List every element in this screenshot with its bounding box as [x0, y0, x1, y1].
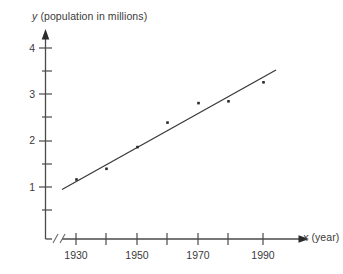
y-axis-title: y (population in millions) — [32, 10, 147, 22]
y-tick-label-1: 1 — [19, 181, 35, 193]
x-axis-title: x (year) — [303, 231, 339, 243]
data-point — [105, 168, 108, 171]
y-tick-label-3: 3 — [19, 88, 35, 100]
x-tick-label-1970: 1970 — [178, 249, 218, 261]
data-point — [262, 81, 265, 84]
x-tick-label-1950: 1950 — [117, 249, 157, 261]
y-tick-label-2: 2 — [19, 134, 35, 146]
trend-line — [62, 70, 276, 190]
x-axis — [46, 235, 310, 243]
y-axis-variable: y — [32, 10, 37, 22]
y-tick-label-4: 4 — [19, 42, 35, 54]
data-point — [197, 102, 200, 105]
chart-plot-area — [0, 0, 343, 274]
x-axis-unit: (year) — [311, 231, 339, 243]
data-point — [166, 121, 169, 124]
population-scatter-chart: y (population in millions) x (year) 4 3 … — [0, 0, 343, 274]
x-axis-variable: x — [303, 231, 308, 243]
x-tick-label-1990: 1990 — [243, 249, 283, 261]
data-point — [136, 146, 139, 149]
data-point — [75, 178, 78, 181]
x-tick-label-1930: 1930 — [56, 249, 96, 261]
y-axis-unit: (population in millions) — [40, 10, 147, 22]
data-point — [227, 100, 230, 103]
y-axis — [42, 29, 50, 239]
